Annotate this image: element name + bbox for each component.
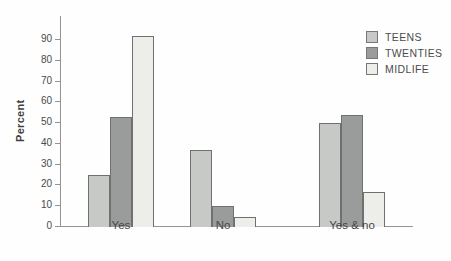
legend-item-teens: TEENS (366, 29, 442, 45)
y-tick-mark (55, 143, 60, 144)
y-tick-mark (55, 205, 60, 206)
category-label-no: No (178, 219, 268, 231)
legend-label-midlife: MIDLIFE (385, 63, 429, 75)
legend-swatch-twenties (366, 47, 378, 59)
y-tick-label: 40 (18, 137, 52, 149)
bar-midlife-yes (132, 36, 154, 227)
bar-teens-no (190, 150, 212, 227)
y-tick-label: 70 (18, 75, 52, 87)
y-axis-line (60, 16, 61, 227)
bar-twenties-yes-no (341, 115, 363, 227)
y-tick-mark (55, 101, 60, 102)
y-tick-mark (55, 39, 60, 40)
y-tick-mark (55, 81, 60, 82)
y-tick-mark (55, 164, 60, 165)
legend-label-teens: TEENS (385, 31, 422, 43)
y-tick-mark (55, 122, 60, 123)
y-tick-label: 50 (18, 116, 52, 128)
plot-area: 0102030405060708090 (60, 16, 413, 227)
y-tick-label: 30 (18, 158, 52, 170)
legend-swatch-teens (366, 31, 378, 43)
y-tick-label: 90 (18, 33, 52, 45)
y-tick-label: 80 (18, 54, 52, 66)
legend: TEENSTWENTIESMIDLIFE (366, 29, 442, 77)
bar-teens-yes-no (319, 123, 341, 227)
category-label-yes: Yes (76, 219, 166, 231)
y-tick-label: 20 (18, 178, 52, 190)
legend-item-twenties: TWENTIES (366, 45, 442, 61)
y-tick-mark (55, 184, 60, 185)
y-tick-label: 10 (18, 199, 52, 211)
y-tick-mark (55, 226, 60, 227)
legend-item-midlife: MIDLIFE (366, 61, 442, 77)
bar-chart-figure: Percent 0102030405060708090 YesNoYes & n… (0, 0, 451, 261)
y-tick-label: 60 (18, 95, 52, 107)
legend-label-twenties: TWENTIES (385, 47, 442, 59)
y-tick-label: 0 (18, 220, 52, 232)
bar-twenties-yes (110, 117, 132, 227)
legend-swatch-midlife (366, 63, 378, 75)
category-label-yes-no: Yes & no (307, 219, 397, 231)
y-tick-mark (55, 60, 60, 61)
